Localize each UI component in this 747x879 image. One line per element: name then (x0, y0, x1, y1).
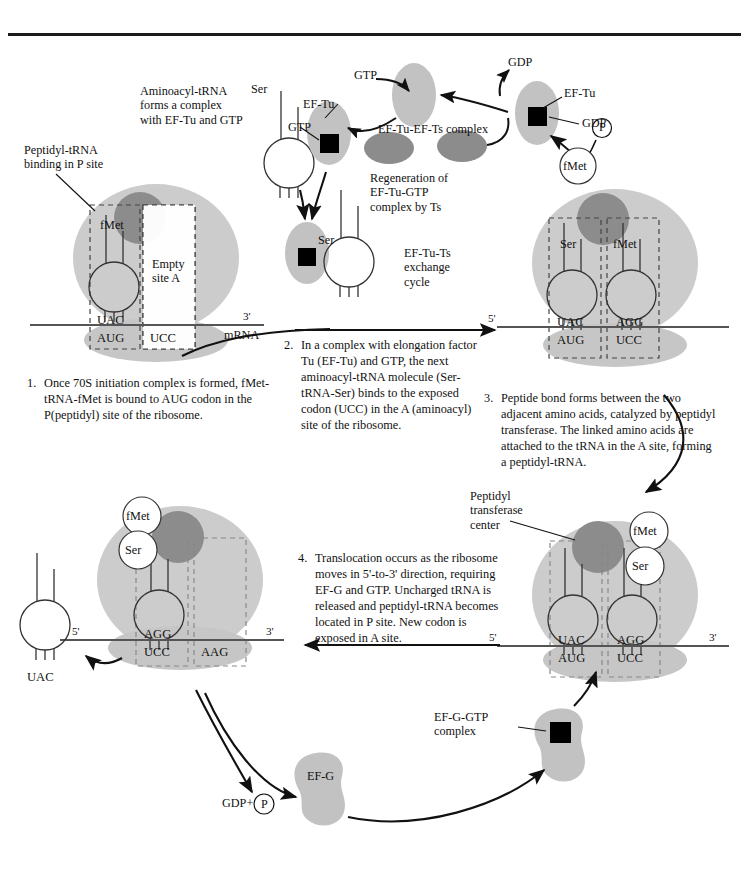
ef-g-cycle-graphic (254, 709, 585, 826)
step-3-caption: 3. Peptide bond forms between the two ad… (484, 391, 720, 471)
annotation-aminoacyl-complex: Aminoacyl-tRNA forms a complex with EF-T… (140, 84, 243, 127)
ribosome-1-a-site-codon: UCC (150, 331, 176, 346)
step-3-text: Peptide bond forms between the two adjac… (501, 391, 720, 471)
ribosome-4-p-site-codon: UCC (144, 645, 170, 660)
ribosome-2-a-site-anticodon: AGG (616, 315, 643, 330)
ribosome-2-p-site-codon: AUG (557, 333, 584, 348)
ribosome-3-mrna-three-prime: 3' (709, 631, 717, 644)
step-4-text: Translocation occurs as the ribosome mov… (315, 551, 504, 647)
ribosome-4-a-site-codon: AAG (201, 645, 228, 660)
ribosome-3-a-site-amino-acid-bottom: Ser (632, 559, 648, 573)
annotation-exchange-cycle: EF-Tu-Ts exchange cycle (404, 246, 451, 289)
label-fmet-free: fMet (563, 159, 587, 173)
step-1-text: Once 70S initiation complex is formed, f… (44, 376, 279, 424)
label-phosphate-circle: P (598, 120, 607, 134)
diagram-canvas: Peptidyl-tRNA binding in P site Aminoacy… (0, 0, 747, 879)
annotation-ef-g-gtp-complex: EF-G-GTP complex (434, 710, 488, 739)
ribosome-4-p-site-amino-acid-top: fMet (126, 509, 150, 523)
ribosome-1-a-site-note: Empty site A (152, 257, 185, 286)
step-1-number: 1. (27, 376, 36, 392)
ribosome-1-p-site-codon: AUG (97, 331, 124, 346)
step-1-caption: 1. Once 70S initiation complex is formed… (27, 376, 279, 424)
step-2-caption: 2. In a complex with elongation factor T… (284, 338, 484, 434)
label-gtp-input: GTP (354, 68, 377, 82)
ribosome-3-graphic (497, 512, 729, 682)
label-gtp-oval: GTP (288, 120, 311, 134)
label-mrna: mRNA (224, 328, 259, 342)
step-2-text: In a complex with elongation factor Tu (… (301, 338, 484, 434)
label-ef-tu-top: EF-Tu (303, 97, 334, 111)
step-2-number: 2. (284, 338, 293, 354)
ribosome-2-mrna-five-prime: 5' (488, 312, 496, 325)
label-ef-g: EF-G (307, 769, 334, 783)
label-phosphate-circle-bottom: P (260, 797, 269, 811)
step-3-number: 3. (484, 391, 493, 407)
label-ef-tu-right: EF-Tu (564, 86, 595, 100)
step-4-number: 4. (298, 551, 307, 567)
annotation-regeneration: Regeneration of EF-Tu-GTP complex by Ts (370, 171, 448, 214)
ribosome-4-mrna-three-prime: 3' (266, 625, 274, 638)
annotation-ef-tu-ef-ts-complex: EF-Tu-EF-Ts complex (378, 122, 488, 136)
ribosome-2-graphic (497, 189, 729, 367)
label-gdp-released: GDP (508, 55, 532, 69)
ribosome-4-mrna-five-prime: 5' (72, 625, 80, 638)
ribosome-4-p-site-anticodon: AGG (144, 627, 171, 642)
ribosome-3-a-site-codon: UCC (617, 651, 643, 666)
ribosome-3-a-site-anticodon: AGG (617, 633, 644, 648)
annotation-peptidyl-transferase-center: Peptidyl transferase center (470, 489, 523, 532)
ribosome-2-p-site-amino-acid: Ser (560, 237, 576, 251)
ribosome-4-p-site-amino-acid-bottom: Ser (125, 543, 141, 557)
ribosome-2-a-site-amino-acid: fMet (613, 237, 637, 251)
ribosome-2-a-site-codon: UCC (616, 333, 642, 348)
ribosome-1-p-site-amino-acid: fMet (100, 218, 124, 232)
annotation-peptidyl-trna-binding: Peptidyl-tRNA binding in P site (24, 143, 103, 172)
label-ser-free-trna: Ser (251, 82, 267, 96)
step-4-caption: 4. Translocation occurs as the ribosome … (298, 551, 504, 647)
ribosome-1-p-site-anticodon: UAC (97, 313, 124, 328)
label-ser-ternary: Ser (318, 233, 334, 247)
ribosome-3-p-site-anticodon: UAC (558, 633, 585, 648)
ribosome-3-a-site-amino-acid-top: fMet (633, 524, 657, 538)
released-trna-anticodon: UAC (27, 670, 54, 685)
ribosome-2-p-site-anticodon: UAC (557, 315, 584, 330)
label-gdp-plus-p: GDP+ (222, 796, 253, 810)
ribosome-1-mrna-three-prime: 3' (243, 310, 251, 323)
ribosome-3-p-site-codon: AUG (558, 651, 585, 666)
